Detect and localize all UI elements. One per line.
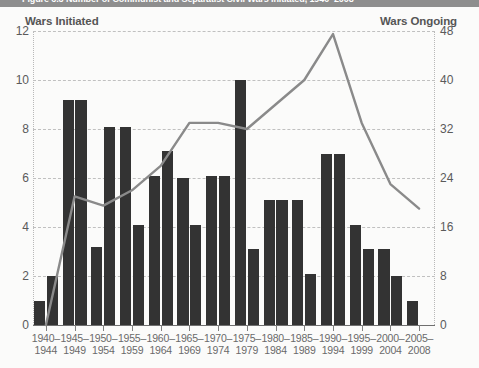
x-tick-mark	[218, 325, 219, 331]
figure-title-bar: Figure 6.3 Number of Communist and Separ…	[0, 0, 479, 7]
x-tick-mark	[362, 325, 363, 331]
figure-title: Number of Communist and Separatist Civil…	[66, 0, 354, 4]
right-tick-label-40: 40	[440, 74, 453, 86]
x-tick-mark	[390, 325, 391, 331]
left-tick-label-12: 12	[16, 25, 29, 37]
right-tick-label-16: 16	[440, 221, 453, 233]
right-tick-label-48: 48	[440, 25, 453, 37]
left-tick-label-10: 10	[16, 74, 29, 86]
left-tick-label-6: 6	[22, 172, 29, 184]
x-tick-mark	[46, 325, 47, 331]
left-tick-label-0: 0	[22, 319, 29, 331]
x-tick-mark	[103, 325, 104, 331]
right-tick-label-32: 32	[440, 123, 453, 135]
x-tick-mark	[75, 325, 76, 331]
figure-number: Figure 6.3	[22, 0, 64, 4]
x-tick-mark	[247, 325, 248, 331]
x-tick-mark	[161, 325, 162, 331]
x-axis: 1940–19441945–19491950–19541955–19591960…	[33, 325, 435, 368]
x-tick-mark	[333, 325, 334, 331]
right-tick-label-8: 8	[440, 270, 447, 282]
plot-area: 024681012 081624324048	[33, 31, 435, 325]
x-tick-mark	[276, 325, 277, 331]
left-tick-label-8: 8	[22, 123, 29, 135]
x-tick-mark	[304, 325, 305, 331]
left-tick-label-4: 4	[22, 221, 29, 233]
chart-figure: Figure 6.3 Number of Communist and Separ…	[0, 0, 479, 368]
x-tick-mark	[189, 325, 190, 331]
x-tick-label: 2005–2008	[402, 333, 436, 356]
x-tick-mark	[132, 325, 133, 331]
left-tick-label-2: 2	[22, 270, 29, 282]
right-tick-label-24: 24	[440, 172, 453, 184]
right-tick-label-0: 0	[440, 319, 447, 331]
x-tick-label-end: 2008	[402, 345, 436, 357]
x-tick-label-start: 2005–	[402, 333, 436, 345]
left-axis-header: Wars Initiated	[25, 15, 99, 27]
line-series-wars-ongoing	[33, 31, 435, 325]
x-tick-mark	[419, 325, 420, 331]
